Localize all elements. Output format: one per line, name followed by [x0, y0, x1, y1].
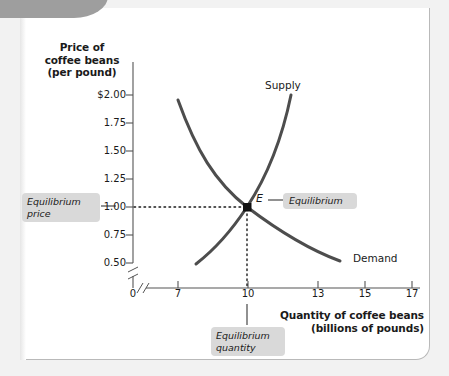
demand-curve-label: Demand [353, 252, 398, 264]
y-tick-label-2-00: $2.00 [74, 89, 126, 100]
callout-equilibrium: Equilibrium [283, 193, 357, 209]
y-axis-title: Price of coffee beans (per pound) [36, 41, 128, 79]
x-axis-ticks [178, 281, 412, 288]
x-axis-title-line-2: (billions of pounds) [268, 322, 424, 335]
callout-equilibrium-price: Equilibrium price [22, 193, 100, 222]
x-tick-label-15: 15 [350, 288, 380, 299]
equilibrium-point-marker [243, 203, 252, 212]
y-tick-label-1-75: 1.75 [74, 117, 126, 128]
x-axis-title-line-1: Quantity of coffee beans [268, 309, 424, 322]
x-tick-label-7: 7 [163, 288, 193, 299]
supply-curve [196, 95, 291, 264]
x-tick-label-17: 17 [397, 288, 427, 299]
y-axis-ticks [126, 95, 133, 263]
x-tick-label-13: 13 [303, 288, 333, 299]
x-axis-title: Quantity of coffee beans (billions of po… [268, 309, 424, 334]
y-axis-title-line-1: Price of [36, 41, 128, 54]
y-axis-title-line-3: (per pound) [36, 66, 128, 79]
y-tick-label-0-50: 0.50 [74, 257, 126, 268]
callout-equilibrium-quantity: Equilibrium quantity [211, 327, 285, 356]
figure-root: Price of coffee beans (per pound) Quanti… [0, 0, 449, 376]
equilibrium-point-label: E [256, 192, 263, 205]
y-tick-label-1-50: 1.50 [74, 145, 126, 156]
y-tick-label-1-25: 1.25 [74, 173, 126, 184]
supply-curve-label: Supply [265, 79, 301, 91]
x-tick-label-10: 10 [233, 288, 263, 299]
y-axis-title-line-2: coffee beans [36, 54, 128, 67]
y-tick-label-0-75: 0.75 [74, 229, 126, 240]
demand-curve [178, 100, 340, 261]
x-tick-label-0: 0 [118, 288, 148, 299]
